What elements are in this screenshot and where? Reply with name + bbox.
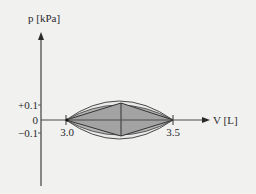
- y-tick-label-zero: 0: [33, 115, 39, 126]
- plot-area: [0, 0, 256, 194]
- y-axis-arrow-icon: [38, 32, 44, 40]
- x-tick-label-3-0: 3.0: [60, 127, 74, 138]
- pv-diagram: p [kPa] V [L] +0.1 0 −0.1 3.0 3.5: [0, 0, 256, 194]
- y-axis-label: p [kPa]: [28, 13, 60, 24]
- x-axis-arrow-icon: [202, 117, 210, 123]
- x-axis-label: V [L]: [213, 115, 238, 126]
- y-tick-label-plus: +0.1: [18, 100, 38, 111]
- x-tick-label-3-5: 3.5: [166, 127, 180, 138]
- y-tick-label-minus: −0.1: [18, 128, 38, 139]
- left-vertex-dot: [65, 118, 68, 121]
